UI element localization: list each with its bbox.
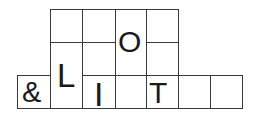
letter-I: I: [94, 77, 103, 111]
letter-L: L: [57, 59, 75, 92]
letter-O: O: [118, 27, 141, 57]
letter-grid-puzzle: & L I O T: [0, 0, 254, 113]
grid-cell-r1c1: [50, 9, 83, 43]
letter-T: T: [149, 78, 167, 108]
letter-ampersand: &: [22, 78, 41, 107]
grid-cell-r3c6: [210, 75, 243, 109]
grid-cell-r1c2: [82, 9, 116, 43]
grid-cell-r2c4: [146, 42, 179, 76]
grid-cell-r2c2: [82, 42, 116, 76]
grid-cell-r1c4: [146, 9, 179, 43]
grid-cell-r3c3: [115, 75, 147, 109]
grid-cell-r3c5: [178, 75, 211, 109]
